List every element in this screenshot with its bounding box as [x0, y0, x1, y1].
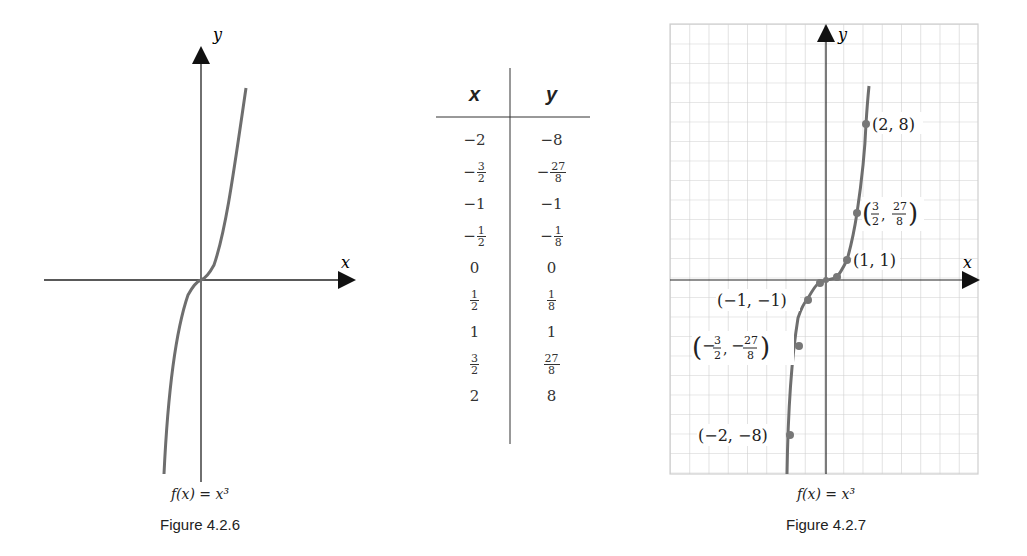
- point-neg0.5-neg0.125: [816, 279, 824, 287]
- point-0.5-0.125: [833, 273, 841, 281]
- graph-paper-grid: [670, 24, 978, 474]
- x-axis-label: x: [963, 253, 972, 272]
- svg-text:3: 3: [714, 334, 721, 347]
- figure-4-2-7-plot: x y (2, 8) ( 3 2 , 27 8 ) (1, 1): [0, 0, 1027, 556]
- svg-text:27: 27: [744, 334, 758, 347]
- point-1-1: [843, 256, 851, 264]
- svg-text:): ): [760, 332, 770, 362]
- point-neg1.5-neg3.375: [795, 342, 803, 350]
- point-1.5-3.375: [853, 209, 861, 217]
- label-neg2-neg8: (−2, −8): [698, 426, 768, 445]
- svg-text:3: 3: [872, 200, 879, 213]
- svg-text:(: (: [692, 332, 702, 362]
- point-0-0: [823, 277, 829, 283]
- point-neg2-neg8: [786, 431, 794, 439]
- svg-text:2: 2: [872, 215, 879, 228]
- label-neg1-neg1: (−1, −1): [717, 291, 787, 310]
- point-neg1-neg1: [804, 296, 812, 304]
- svg-text:2: 2: [714, 349, 721, 362]
- svg-text:,: ,: [723, 341, 727, 357]
- svg-text:,: ,: [881, 207, 885, 223]
- svg-text:(: (: [862, 198, 872, 228]
- figure2-function-label: f(x) = x³: [766, 486, 886, 502]
- y-axis-label: y: [837, 25, 848, 44]
- label-1-1: (1, 1): [853, 251, 896, 270]
- svg-text:8: 8: [747, 349, 754, 362]
- point-2-8: [862, 120, 870, 128]
- figure2-caption: Figure 4.2.7: [766, 516, 886, 533]
- svg-text:−: −: [731, 336, 744, 355]
- svg-text:): ): [908, 198, 918, 228]
- svg-text:27: 27: [893, 200, 907, 213]
- svg-text:8: 8: [896, 215, 903, 228]
- label-2-8: (2, 8): [872, 115, 915, 134]
